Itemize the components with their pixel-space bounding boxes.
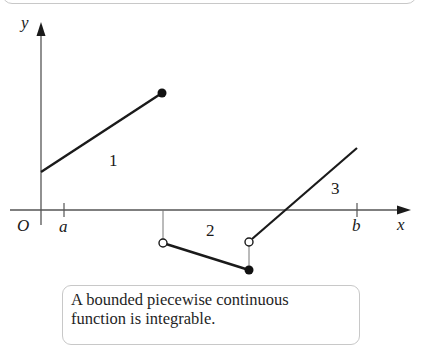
region-label-2: 2 [206, 222, 215, 239]
segment-2 [166, 244, 249, 270]
caption-line-2: function is integrable. [71, 309, 359, 328]
closed-endpoint [158, 89, 167, 98]
caption-line-1: A bounded piecewise continuous [71, 290, 359, 309]
y-axis-label: y [21, 14, 29, 31]
region-label-1: 1 [109, 152, 118, 169]
tick-label-b: b [352, 217, 361, 234]
tick-label-a: a [59, 218, 68, 235]
region-label-3: 3 [331, 180, 340, 197]
segment-1 [41, 93, 162, 172]
x-axis-arrow-icon [397, 206, 411, 215]
closed-endpoint [245, 266, 254, 275]
origin-label: O [17, 217, 29, 234]
y-axis-arrow-icon [37, 22, 46, 36]
x-axis-label: x [397, 216, 405, 233]
segment-3 [252, 148, 357, 239]
caption-box: A bounded piecewise continuous function … [62, 285, 360, 345]
open-endpoint [159, 239, 167, 247]
open-endpoint [245, 238, 253, 246]
